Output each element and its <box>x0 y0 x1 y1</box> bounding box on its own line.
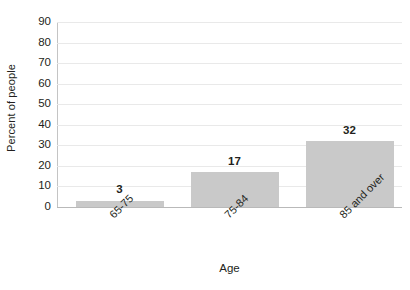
y-axis-tick-label: 60 <box>38 78 51 90</box>
y-axis-tick-label: 10 <box>38 181 51 193</box>
y-axis-title-text: Percent of people <box>5 64 17 152</box>
bar-value-label: 3 <box>76 184 164 196</box>
y-axis-tick-label: 70 <box>38 57 51 69</box>
x-axis-tick-labels: 65-7575-8485 and over <box>57 208 402 260</box>
bar-value-label: 32 <box>306 125 394 137</box>
bar-chart: Percent of people 0102030405060708090 31… <box>0 0 410 290</box>
y-axis-tick-label: 20 <box>38 160 51 172</box>
y-axis-tick-labels: 0102030405060708090 <box>22 0 55 215</box>
y-axis-tick-label: 90 <box>38 16 51 28</box>
bar-value-label: 17 <box>191 156 279 168</box>
bars-layer: 31732 <box>57 22 402 207</box>
y-axis-tick-label: 50 <box>38 98 51 110</box>
y-axis-tick-label: 0 <box>45 201 51 213</box>
y-axis-tick-label: 30 <box>38 140 51 152</box>
bar-group[interactable]: 3 <box>76 22 164 207</box>
x-axis-title: Age <box>57 262 402 274</box>
y-axis-tick-label: 80 <box>38 37 51 49</box>
y-axis-tick-label: 40 <box>38 119 51 131</box>
bar-group[interactable]: 17 <box>191 22 279 207</box>
y-axis-title: Percent of people <box>0 0 22 215</box>
